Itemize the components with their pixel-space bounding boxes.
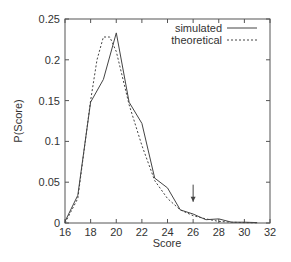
x-tick-label: 30: [238, 226, 250, 238]
chart: 161820222426283032 00.050.10.150.20.25 s…: [0, 0, 291, 262]
x-tick-label: 26: [187, 226, 199, 238]
y-tick-label: 0.05: [39, 176, 60, 188]
x-tick-label: 22: [136, 226, 148, 238]
x-tick-label: 18: [85, 226, 97, 238]
x-tick-label: 32: [264, 226, 276, 238]
y-tick-label: 0.25: [39, 13, 60, 25]
y-axis-title: P(Score): [12, 99, 24, 142]
y-tick-label: 0.2: [45, 54, 60, 66]
plot-area: [65, 19, 270, 223]
x-tick-label: 16: [59, 226, 71, 238]
y-tick-label: 0: [54, 217, 60, 229]
legend-label-simulated: simulated: [175, 22, 222, 34]
y-tick-label: 0.1: [45, 135, 60, 147]
x-tick-label: 28: [213, 226, 225, 238]
y-tick-label: 0.15: [39, 95, 60, 107]
x-axis-title: Score: [153, 237, 182, 249]
x-tick-label: 20: [110, 226, 122, 238]
legend-label-theoretical: theoretical: [171, 34, 222, 46]
